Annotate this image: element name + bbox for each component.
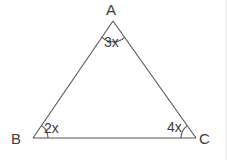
angle-label-c: 4x <box>167 120 182 134</box>
angle-label-b: 2x <box>44 121 59 135</box>
triangle-diagram <box>0 0 227 160</box>
vertex-label-b: B <box>11 131 21 146</box>
angle-arc-c <box>181 126 187 138</box>
side-ac <box>113 21 196 138</box>
vertex-label-c: C <box>199 131 210 146</box>
right-edge-shade <box>225 0 227 160</box>
angle-label-a: 3x <box>104 35 119 49</box>
vertex-label-a: A <box>106 2 116 17</box>
geometry-figure: A B C 3x 2x 4x <box>0 0 227 160</box>
